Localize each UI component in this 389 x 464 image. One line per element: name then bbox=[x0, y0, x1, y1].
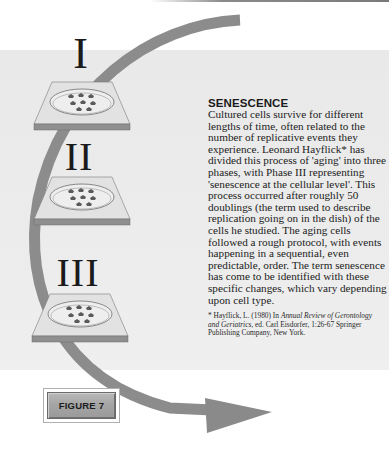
phase-numeral-3: III bbox=[38, 253, 118, 293]
figure-badge: FIGURE 7 bbox=[43, 388, 120, 423]
phase-numeral-2: II bbox=[39, 137, 119, 177]
figure-page: I II bbox=[0, 0, 389, 464]
phase-numeral-1: I bbox=[41, 34, 121, 74]
petri-dish-icon bbox=[32, 80, 132, 136]
petri-dish-icon bbox=[30, 292, 130, 348]
article-body: Cultured cells survive for different len… bbox=[208, 109, 388, 306]
petri-dish-icon bbox=[32, 175, 132, 231]
figure-badge-plate: FIGURE 7 bbox=[47, 392, 116, 419]
figure-label: FIGURE 7 bbox=[59, 400, 104, 411]
senescence-article: SENESCENCE Cultured cells survive for di… bbox=[208, 97, 388, 337]
article-footnote: * Hayflick, L. (1980) In Annual Review o… bbox=[208, 312, 383, 337]
